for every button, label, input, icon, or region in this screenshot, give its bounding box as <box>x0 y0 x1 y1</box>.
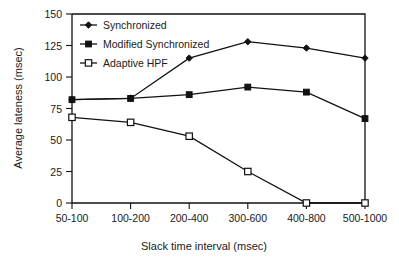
data-point-filled-square <box>69 97 75 103</box>
y-tick-label: 125 <box>44 40 62 52</box>
x-tick-labels: 50-100 100-200 200-400 300-600 400-800 5… <box>56 212 388 224</box>
y-tick-label: 25 <box>50 166 62 178</box>
y-tick-label: 100 <box>44 71 62 83</box>
y-tick-label: 50 <box>50 134 62 146</box>
data-point-filled-square <box>186 92 192 98</box>
data-point-open-square <box>127 119 133 125</box>
x-tick-label: 200-400 <box>170 212 209 224</box>
data-point-open-square <box>362 200 368 206</box>
data-point-filled-diamond <box>245 39 251 45</box>
data-point-filled-square <box>304 89 310 95</box>
data-point-filled-diamond <box>362 55 368 61</box>
data-point-open-square <box>303 200 309 206</box>
data-point-filled-square <box>128 96 134 102</box>
x-axis-title: Slack time interval (msec) <box>141 240 267 252</box>
data-point-open-square <box>69 114 75 120</box>
data-point-filled-square <box>362 116 368 122</box>
chart-figure: 150 125 100 75 50 25 0 50-100 100-200 20… <box>0 0 399 263</box>
series-adaptive-hpf <box>69 114 368 206</box>
legend-item-modified-synchronized: Modified Synchronized <box>80 38 209 50</box>
data-point-filled-square <box>245 84 251 90</box>
x-tick-label: 500-1000 <box>343 212 388 224</box>
x-tick-label: 50-100 <box>56 212 89 224</box>
y-tick-label: 75 <box>50 103 62 115</box>
x-tick-label: 400-800 <box>287 212 326 224</box>
data-point-filled-diamond <box>303 45 309 51</box>
legend-label: Synchronized <box>103 19 167 31</box>
x-axis-ticks <box>72 203 365 209</box>
legend-item-synchronized: Synchronized <box>80 19 167 31</box>
y-tick-labels: 150 125 100 75 50 25 0 <box>44 8 62 209</box>
y-axis-ticks <box>66 14 72 203</box>
data-point-open-square <box>186 133 192 139</box>
legend-label: Modified Synchronized <box>103 38 209 50</box>
data-point-open-square <box>245 168 251 174</box>
chart-legend: Synchronized Modified Synchronized Adapt… <box>80 19 209 69</box>
x-tick-label: 100-200 <box>111 212 150 224</box>
x-tick-label: 300-600 <box>229 212 268 224</box>
open-square-icon <box>85 60 91 66</box>
y-axis-title: Average lateness (msec) <box>12 47 24 168</box>
legend-label: Adaptive HPF <box>103 57 168 69</box>
filled-square-icon <box>86 41 92 47</box>
series-modified-synchronized <box>69 84 368 121</box>
series-line <box>72 87 365 119</box>
series-line <box>72 117 365 203</box>
y-tick-label: 150 <box>44 8 62 20</box>
filled-diamond-icon <box>85 22 91 28</box>
line-chart: 150 125 100 75 50 25 0 50-100 100-200 20… <box>0 0 399 263</box>
legend-item-adaptive-hpf: Adaptive HPF <box>80 57 168 69</box>
y-tick-label: 0 <box>56 197 62 209</box>
